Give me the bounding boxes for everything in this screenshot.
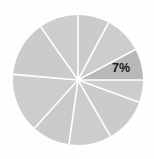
pie-chart-figure: 7% — [0, 0, 154, 159]
pie-chart-canvas: 7% — [0, 0, 154, 159]
slice-percentage-label: 7% — [112, 61, 130, 75]
